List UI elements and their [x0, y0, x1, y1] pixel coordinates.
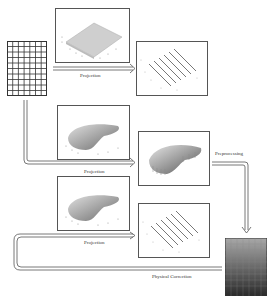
- label-preprocessing: Preprocessing: [215, 151, 243, 156]
- plot-fringe-1: [136, 41, 208, 96]
- plot-curved-surface-2: [57, 176, 130, 231]
- input-grid: [7, 41, 47, 96]
- label-projection-2: Projection: [84, 169, 105, 174]
- label-projection-1: Projection: [80, 73, 101, 78]
- output-gradient-grid: [225, 238, 267, 296]
- plot-flat-surface: [55, 8, 130, 63]
- label-physical-correction: Physical Correction: [152, 274, 192, 279]
- plot-curved-surface-1: [57, 105, 130, 160]
- plot-curved-fringe: [138, 131, 210, 186]
- label-projection-3: Projection: [84, 240, 105, 245]
- arrow-preprocessing: [212, 162, 251, 233]
- plot-fringe-2: [138, 203, 210, 258]
- arrow-projection-1: [53, 64, 135, 73]
